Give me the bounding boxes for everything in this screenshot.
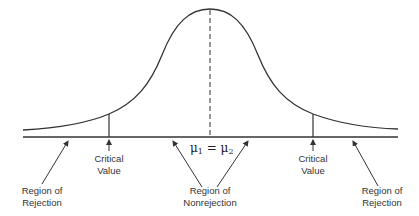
label-line: Region of xyxy=(20,185,64,197)
left-rejection-label: Region of Rejection xyxy=(20,185,64,209)
label-line: Critical xyxy=(292,153,334,165)
left-critical-value-label: Critical Value xyxy=(88,153,130,177)
mu2-subscript: 2 xyxy=(228,147,233,156)
label-line: Nonrejection xyxy=(180,197,240,209)
label-line: Value xyxy=(292,165,334,177)
label-line: Critical xyxy=(88,153,130,165)
label-line: Value xyxy=(88,165,130,177)
normal-curve-diagram xyxy=(0,0,419,216)
label-line: Region of xyxy=(358,185,406,197)
right-critical-value-label: Critical Value xyxy=(292,153,334,177)
nonrejection-label: Region of Nonrejection xyxy=(180,185,240,209)
label-line: Rejection xyxy=(358,197,406,209)
mean-equality-label: μ1 = μ2 xyxy=(190,141,234,156)
left-rejection-arrow xyxy=(42,141,68,184)
right-rejection-arrow xyxy=(353,141,378,186)
right-rejection-label: Region of Rejection xyxy=(358,185,406,209)
label-line: Rejection xyxy=(20,197,64,209)
label-line: Region of xyxy=(180,185,240,197)
mu1-symbol: μ xyxy=(190,141,198,155)
equals-sign: = xyxy=(203,141,221,155)
